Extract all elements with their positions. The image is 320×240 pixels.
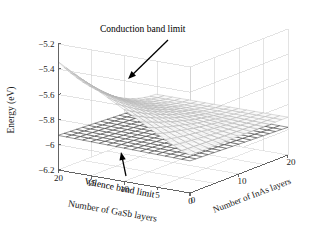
- y-tick-label-0: 0: [191, 195, 196, 205]
- y-tick-label-2: 20: [287, 157, 297, 167]
- y-axis-title: Number of InAs layers: [212, 176, 293, 215]
- y-tick-label-1: 10: [238, 176, 248, 186]
- figure-3d-surface-plot: −5.2−5.4−5.6−5.8−6−6.2 20151050 01020 En…: [0, 0, 320, 240]
- x-tick-label-0: 20: [54, 173, 64, 183]
- z-tick-label-5: −6.2: [38, 165, 54, 175]
- conduction-band-limit-label: Conduction band limit: [100, 24, 186, 34]
- z-tick-label-0: −5.2: [38, 39, 54, 49]
- z-tick-label-1: −5.4: [38, 64, 55, 74]
- z-tick-label-4: −6: [45, 140, 55, 150]
- x-tick-label-3: 5: [155, 190, 160, 200]
- x-axis-title: Number of GaSb layers: [67, 198, 158, 223]
- z-tick-label-2: −5.6: [38, 90, 55, 100]
- z-tick-label-3: −5.8: [38, 115, 55, 125]
- z-axis-title: Energy (eV): [6, 86, 17, 133]
- z-axis-tick-labels: −5.2−5.4−5.6−5.8−6−6.2: [38, 39, 55, 175]
- plot-canvas: −5.2−5.4−5.6−5.8−6−6.2 20151050 01020 En…: [0, 0, 320, 240]
